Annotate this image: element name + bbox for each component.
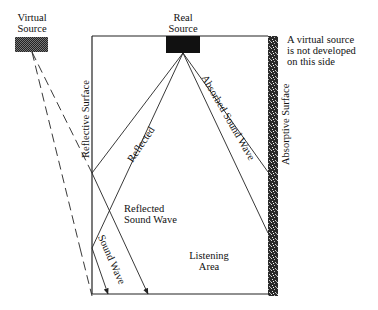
absorptive-surface-label: Absorptive Surface — [280, 84, 291, 165]
real-source-line-2: Source — [160, 23, 206, 34]
note-line-1: A virtual source — [287, 34, 356, 45]
virtual-source-line-2: Source — [10, 23, 54, 34]
room-outline — [92, 36, 268, 294]
virtual-source-box — [15, 37, 48, 52]
note-line-3: on this side — [287, 56, 356, 67]
listening-area-label: Listening Area — [184, 250, 234, 272]
reflected-sound-wave-line-2: Sound Wave — [124, 214, 177, 225]
virtual-source-line-1: Virtual — [10, 12, 54, 23]
sound-rays — [92, 53, 268, 294]
note-line-2: is not developed — [287, 45, 356, 56]
reflected-sound-wave-label: Reflected Sound Wave — [124, 203, 177, 225]
reflective-surface-label: Reflective Surface — [80, 80, 91, 158]
real-source-line-1: Real — [160, 12, 206, 23]
real-source-box — [166, 36, 200, 53]
listening-area-line-2: Area — [184, 261, 234, 272]
virtual-source-label: Virtual Source — [10, 12, 54, 34]
note-text: A virtual source is not developed on thi… — [287, 34, 356, 67]
listening-area-line-1: Listening — [184, 250, 234, 261]
absorptive-surface — [268, 36, 278, 296]
real-source-label: Real Source — [160, 12, 206, 34]
reflected-sound-wave-line-1: Reflected — [124, 203, 177, 214]
